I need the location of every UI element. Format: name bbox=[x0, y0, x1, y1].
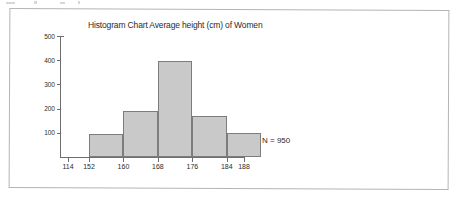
x-tick-mark bbox=[68, 158, 69, 162]
figure-page: Histogram Chart Average height (cm) of W… bbox=[0, 0, 458, 205]
x-tick-label: 188 bbox=[231, 163, 257, 170]
x-tick-label: 168 bbox=[145, 163, 171, 170]
histogram-bar bbox=[123, 111, 157, 157]
x-tick-label: 152 bbox=[76, 163, 102, 170]
histogram-chart: Histogram Chart Average height (cm) of W… bbox=[0, 0, 458, 205]
y-tick-label: 300 bbox=[31, 81, 55, 88]
y-axis-line bbox=[60, 36, 61, 157]
x-tick-mark bbox=[158, 158, 159, 162]
x-axis-line bbox=[60, 157, 245, 158]
x-tick-mark bbox=[192, 158, 193, 162]
y-tick-mark bbox=[57, 60, 61, 61]
x-tick-mark bbox=[89, 158, 90, 162]
histogram-bar bbox=[89, 134, 123, 157]
y-tick-mark bbox=[57, 36, 61, 37]
y-tick-mark bbox=[57, 84, 61, 85]
x-tick-mark bbox=[227, 158, 228, 162]
y-tick-mark bbox=[57, 109, 61, 110]
y-tick-label: 500 bbox=[31, 33, 55, 40]
y-tick-label: 400 bbox=[31, 57, 55, 64]
histogram-bar bbox=[158, 61, 192, 157]
x-tick-mark bbox=[244, 158, 245, 162]
x-tick-mark bbox=[123, 158, 124, 162]
y-tick-mark bbox=[57, 133, 61, 134]
sample-size-annotation: N = 950 bbox=[262, 136, 290, 145]
x-tick-label: 160 bbox=[110, 163, 136, 170]
histogram-bar bbox=[227, 133, 261, 157]
y-tick-label: 200 bbox=[31, 105, 55, 112]
histogram-bar bbox=[192, 116, 226, 157]
y-tick-label: 100 bbox=[31, 129, 55, 136]
x-tick-label: 176 bbox=[179, 163, 205, 170]
chart-title: Histogram Chart Average height (cm) of W… bbox=[88, 20, 308, 30]
